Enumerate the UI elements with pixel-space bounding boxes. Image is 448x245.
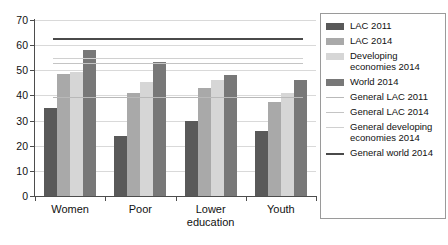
legend-swatch-icon — [326, 97, 344, 98]
bar — [211, 80, 224, 196]
y-axis-tick-label: 0 — [0, 190, 28, 202]
y-axis-tick-label: 20 — [0, 140, 28, 152]
bar — [57, 74, 70, 196]
y-axis-tick-label: 70 — [0, 14, 28, 26]
reference-line — [53, 38, 303, 40]
bar — [140, 82, 153, 196]
bar — [127, 93, 140, 196]
bar — [83, 50, 96, 196]
legend-item[interactable]: General developing economies 2014 — [326, 121, 441, 143]
y-axis-tick-label: 40 — [0, 89, 28, 101]
x-axis-category-label: Lower education — [171, 203, 251, 229]
bar — [224, 75, 237, 196]
y-axis-tick-label: 30 — [0, 115, 28, 127]
bar — [44, 108, 57, 196]
legend-item[interactable]: General world 2014 — [326, 147, 441, 158]
bar — [268, 102, 281, 196]
legend-item-label: World 2014 — [350, 76, 398, 87]
gridline — [35, 20, 316, 21]
legend-item-label: General LAC 2014 — [350, 106, 429, 117]
plot-area — [35, 20, 316, 196]
legend-item-label: General developing economies 2014 — [350, 121, 441, 143]
legend-item-label: Developing economies 2014 — [350, 50, 441, 72]
reference-line — [53, 97, 303, 98]
legend-item-label: LAC 2014 — [350, 35, 392, 46]
legend-item[interactable]: General LAC 2011 — [326, 91, 441, 102]
reference-line — [53, 58, 303, 59]
bar — [294, 80, 307, 196]
bar — [185, 121, 198, 196]
legend-swatch-icon — [326, 112, 344, 113]
x-axis-category-label: Women — [30, 203, 110, 216]
legend-item-label: LAC 2011 — [350, 20, 392, 31]
legend-item-label: General LAC 2011 — [350, 91, 428, 102]
x-axis-tick — [176, 196, 177, 201]
reference-line — [53, 63, 303, 64]
x-axis-tick — [316, 196, 317, 201]
x-axis-tick — [35, 196, 36, 201]
bar — [114, 136, 127, 196]
bar-chart: 010203040506070 WomenPoorLower education… — [0, 0, 448, 245]
legend-item-label: General world 2014 — [350, 147, 433, 158]
bar — [281, 93, 294, 196]
legend-item[interactable]: Developing economies 2014 — [326, 50, 441, 72]
bar — [70, 72, 83, 196]
y-axis-tick-label: 60 — [0, 39, 28, 51]
legend: LAC 2011LAC 2014Developing economies 201… — [320, 13, 446, 219]
bar — [255, 131, 268, 196]
legend-item[interactable]: World 2014 — [326, 76, 441, 87]
gridline — [35, 45, 316, 46]
legend-item[interactable]: General LAC 2014 — [326, 106, 441, 117]
y-axis-tick-label: 10 — [0, 165, 28, 177]
bar — [198, 88, 211, 196]
legend-swatch-icon — [326, 38, 344, 45]
x-axis-tick — [105, 196, 106, 201]
x-axis-category-label: Youth — [241, 203, 321, 216]
bar — [153, 62, 166, 197]
legend-item[interactable]: LAC 2014 — [326, 35, 441, 46]
y-axis-tick-label: 50 — [0, 64, 28, 76]
legend-swatch-icon — [326, 79, 344, 86]
legend-item[interactable]: LAC 2011 — [326, 20, 441, 31]
legend-swatch-icon — [326, 127, 344, 128]
legend-swatch-icon — [326, 153, 344, 155]
x-axis-category-label: Poor — [100, 203, 180, 216]
legend-swatch-icon — [326, 53, 344, 60]
x-axis-tick — [246, 196, 247, 201]
legend-swatch-icon — [326, 23, 344, 30]
